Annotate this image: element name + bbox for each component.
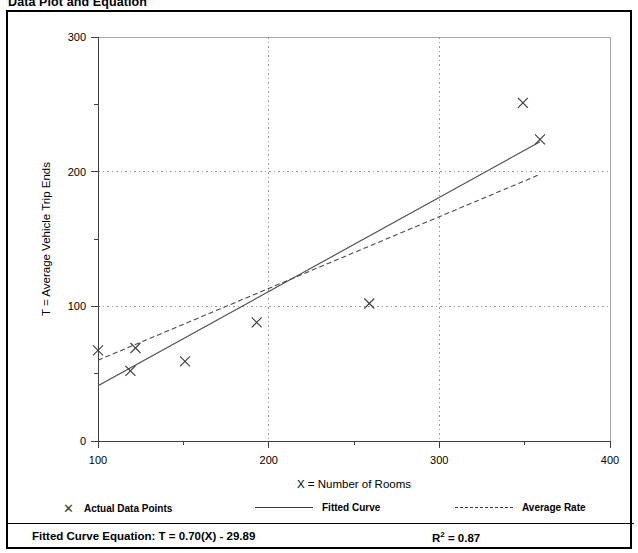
data-point-marker [252,317,262,327]
chart-legend: ✕ Actual Data Points Fitted Curve Averag… [8,500,634,522]
y-axis-ticks [91,37,98,441]
y-axis-title: T = Average Vehicle Trip Ends [40,162,52,316]
y-tick-label-100: 100 [68,300,86,312]
equation-row: Fitted Curve Equation: T = 0.70(X) - 29.… [8,527,634,549]
r-squared-rest: = 0.87 [445,532,481,544]
page-title: Data Plot and Equation [8,0,147,9]
solid-line-icon [255,507,313,508]
x-axis-title: X = Number of Rooms [297,478,411,490]
dashed-line-icon [455,507,513,508]
plot-area-border [98,37,610,441]
figure-frame: 0 100 200 300 100 200 300 400 T = Averag… [6,10,632,549]
x-marker-icon: ✕ [62,502,75,515]
equation-divider [8,523,634,524]
x-tick-label-400: 400 [601,454,619,466]
legend-label-average-rate: Average Rate [522,502,586,513]
y-tick-label-200: 200 [68,166,86,178]
x-tick-label-100: 100 [89,454,107,466]
data-plot-chart: 0 100 200 300 100 200 300 400 T = Averag… [8,12,630,547]
x-tick-label-300: 300 [430,454,448,466]
legend-item-actual-data-points: ✕ Actual Data Points [62,502,172,515]
legend-item-fitted-curve: Fitted Curve [255,502,380,513]
data-point-marker [518,98,528,108]
data-point-marker [364,299,374,309]
data-point-marker [180,356,190,366]
y-tick-label-0: 0 [80,435,86,447]
x-tick-label-200: 200 [260,454,278,466]
legend-label-actual-data-points: Actual Data Points [84,503,172,514]
chart-page: Data Plot and Equation [0,0,638,553]
x-axis-ticks [98,441,610,448]
legend-label-fitted-curve: Fitted Curve [322,502,380,513]
series-fitted-curve-line [98,142,540,386]
legend-item-average-rate: Average Rate [455,502,586,513]
data-point-marker [535,134,545,144]
r-squared-value: R2 = 0.87 [432,530,480,544]
fitted-curve-equation: Fitted Curve Equation: T = 0.70(X) - 29.… [32,530,255,542]
x-gridlines [269,37,440,441]
y-gridlines [98,172,610,307]
series-average-rate-line [98,174,540,360]
y-tick-label-300: 300 [68,31,86,43]
